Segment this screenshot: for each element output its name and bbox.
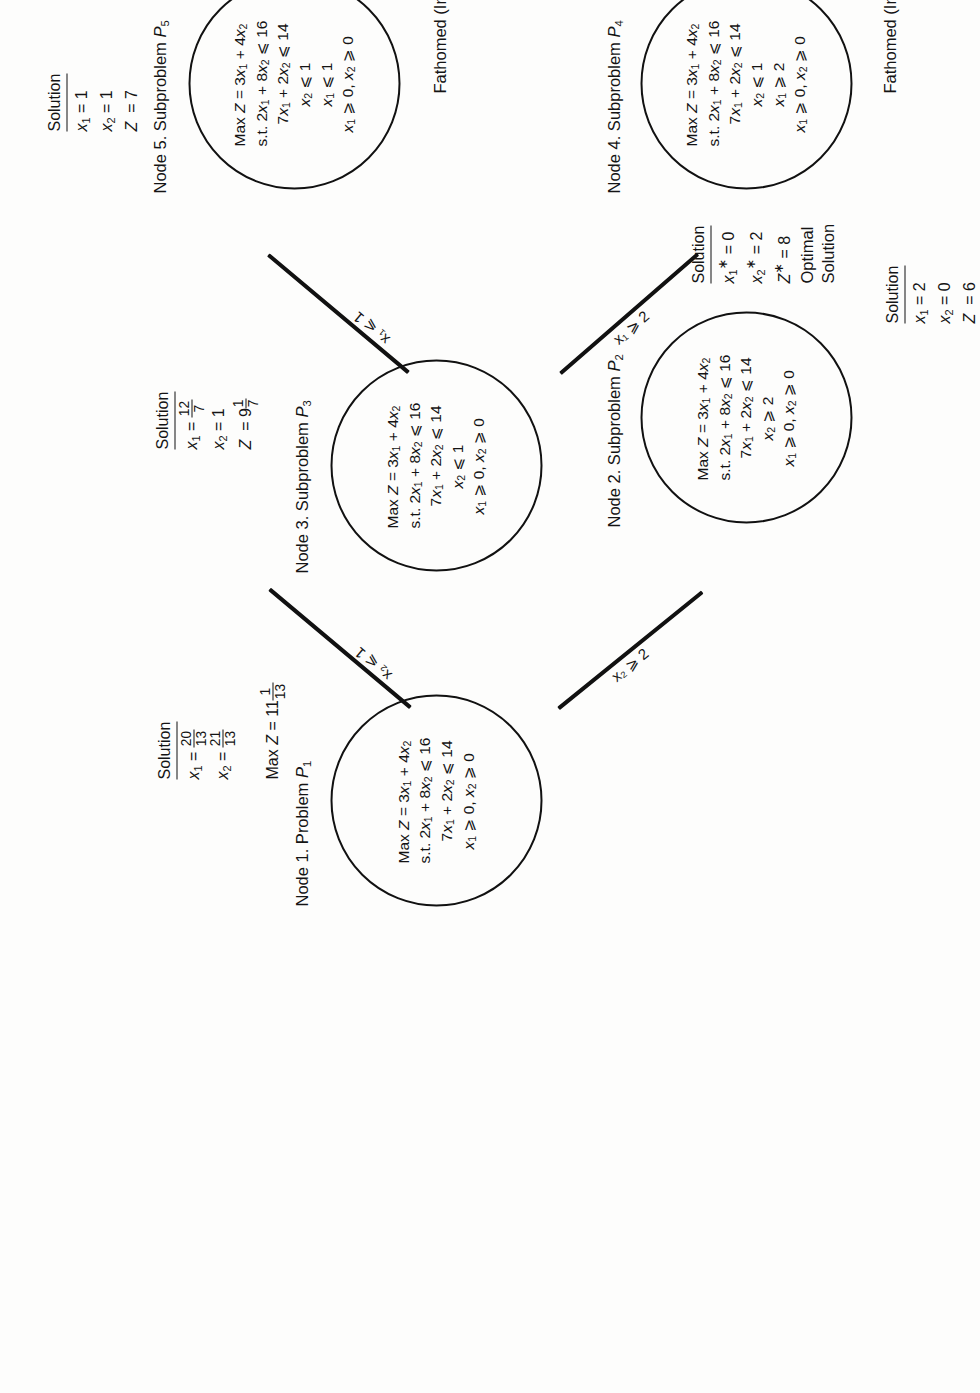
node-2-solution-x2: x2∗ = 2 <box>741 225 769 283</box>
node-2-solution: Solution x1∗ = 0 x2∗ = 2 Z∗ = 8 <box>686 225 795 283</box>
node-1-constraint-2: 7x1 + 2x2 ⩽ 14 <box>436 737 458 863</box>
node-3-solution-x1: x1 = 127 <box>177 391 206 449</box>
node-3-title: Node 3. Subproblem P3 <box>292 400 312 573</box>
node-5-solution-heading: Solution <box>42 73 67 131</box>
node-3-circle[interactable]: Max Z = 3x1 + 4x2 s.t. 2x1 + 8x2 ⩽ 16 7x… <box>330 359 542 571</box>
node-4-solution: Solution x1 = 2 x2 = 0 Z = 6 <box>880 265 980 323</box>
node-4-solution-heading: Solution <box>880 265 905 323</box>
node-2-solution-heading: Solution <box>686 225 711 283</box>
node-3-solution-heading: Solution <box>150 391 175 449</box>
node-3-formulation: Max Z = 3x1 + 4x2 s.t. 2x1 + 8x2 ⩽ 16 7x… <box>382 402 490 528</box>
node-2-title: Node 2. Subproblem P2 <box>604 354 624 527</box>
node-2-circle[interactable]: Max Z = 3x1 + 4x2 s.t. 2x1 + 8x2 ⩽ 16 7x… <box>640 311 852 523</box>
node-4-circle[interactable]: Max Z = 3x1 + 4x2 s.t. 2x1 + 8x2 ⩽ 16 7x… <box>640 0 852 189</box>
node-4-constraint-3: x2 ⩽ 1 <box>746 20 768 146</box>
node-4-solution-z: Z = 6 <box>957 265 980 323</box>
node-4-constraint-1: s.t. 2x1 + 8x2 ⩽ 16 <box>703 20 725 146</box>
node-1-solution-heading: Solution <box>152 721 177 779</box>
node-4-constraint-5: x1 ⩾ 0, x2 ⩾ 0 <box>789 20 811 146</box>
node-5-constraint-5: x1 ⩾ 0, x2 ⩾ 0 <box>337 20 359 146</box>
node-2-solution-x1: x1∗ = 0 <box>713 225 741 283</box>
node-1-objective: Max Z = 3x1 + 4x2 <box>393 737 415 863</box>
node-3-objective: Max Z = 3x1 + 4x2 <box>382 402 404 528</box>
node-5-status-fathomed: Fathomed (Integrality) <box>430 0 449 93</box>
node-2-solution-z: Z∗ = 8 <box>769 225 795 283</box>
node-3-constraint-3: x2 ⩽ 1 <box>447 402 469 528</box>
node-4-title: Node 4. Subproblem P4 <box>604 20 624 193</box>
node-1-constraint-1: s.t. 2x1 + 8x2 ⩽ 16 <box>414 737 436 863</box>
node-3-solution-z: Z = 917 <box>231 391 260 449</box>
node-3-constraint-2: 7x1 + 2x2 ⩽ 14 <box>425 402 447 528</box>
node-3-solution-x2: x2 = 1 <box>206 391 231 449</box>
edge-n1-n2 <box>557 590 703 710</box>
node-1-circle[interactable]: Max Z = 3x1 + 4x2 s.t. 2x1 + 8x2 ⩽ 16 7x… <box>330 694 542 906</box>
node-3-constraint-1: s.t. 2x1 + 8x2 ⩽ 16 <box>404 402 426 528</box>
node-1-solution-x1: x1 = 2013 <box>179 721 208 779</box>
node-1-formulation: Max Z = 3x1 + 4x2 s.t. 2x1 + 8x2 ⩽ 16 7x… <box>393 737 480 863</box>
node-1-solution-x2: x2 = 2113 <box>208 721 237 779</box>
node-5-solution-x1: x1 = 1 <box>69 73 94 131</box>
edge-n3-n5 <box>267 253 410 374</box>
node-2-formulation: Max Z = 3x1 + 4x2 s.t. 2x1 + 8x2 ⩽ 16 7x… <box>692 354 800 480</box>
node-4-constraint-4: x1 ⩾ 2 <box>768 20 790 146</box>
node-5-constraint-3: x2 ⩽ 1 <box>294 20 316 146</box>
node-1-title: Node 1. Problem P1 <box>292 760 312 906</box>
node-4-solution-x2: x2 = 0 <box>932 265 957 323</box>
node-5-solution: Solution x1 = 1 x2 = 1 Z = 7 <box>42 73 142 131</box>
edge-n1-n3 <box>268 587 412 708</box>
node-3-constraint-4: x1 ⩾ 0, x2 ⩾ 0 <box>468 402 490 528</box>
node-5-objective: Max Z = 3x1 + 4x2 <box>229 20 251 146</box>
node-4-constraint-2: 7x1 + 2x2 ⩽ 14 <box>724 20 746 146</box>
node-4-status-fathomed: Fathomed (Integrality) <box>880 0 899 93</box>
node-5-formulation: Max Z = 3x1 + 4x2 s.t. 2x1 + 8x2 ⩽ 16 7x… <box>229 20 359 146</box>
node-1-solution: Solution x1 = 2013 x2 = 2113 <box>152 721 237 779</box>
node-2-constraint-1: s.t. 2x1 + 8x2 ⩽ 16 <box>714 354 736 480</box>
node-2-constraint-3: x2 ⩾ 2 <box>757 354 779 480</box>
node-1-constraint-3: x1 ⩾ 0, x2 ⩾ 0 <box>458 737 480 863</box>
node-5-constraint-1: s.t. 2x1 + 8x2 ⩽ 16 <box>251 20 273 146</box>
node-4-objective: Max Z = 3x1 + 4x2 <box>681 20 703 146</box>
node-5-title: Node 5. Subproblem P5 <box>150 20 170 193</box>
node-3-solution: Solution x1 = 127 x2 = 1 Z = 917 <box>150 391 260 449</box>
node-5-solution-x2: x2 = 1 <box>94 73 119 131</box>
node-2-status-optimal: Optimal Solution <box>796 223 837 283</box>
node-4-solution-x1: x1 = 2 <box>907 265 932 323</box>
node-5-constraint-2: 7x1 + 2x2 ⩽ 14 <box>272 20 294 146</box>
node-2-objective: Max Z = 3x1 + 4x2 <box>692 354 714 480</box>
node-5-constraint-4: x1 ⩽ 1 <box>316 20 338 146</box>
node-4-formulation: Max Z = 3x1 + 4x2 s.t. 2x1 + 8x2 ⩽ 16 7x… <box>681 20 811 146</box>
node-1-maxz: Max Z = 11113 <box>258 682 287 779</box>
node-5-solution-z: Z = 7 <box>119 73 142 131</box>
node-2-constraint-2: 7x1 + 2x2 ⩽ 14 <box>735 354 757 480</box>
node-5-circle[interactable]: Max Z = 3x1 + 4x2 s.t. 2x1 + 8x2 ⩽ 16 7x… <box>188 0 400 189</box>
node-2-constraint-4: x1 ⩾ 0, x2 ⩾ 0 <box>778 354 800 480</box>
